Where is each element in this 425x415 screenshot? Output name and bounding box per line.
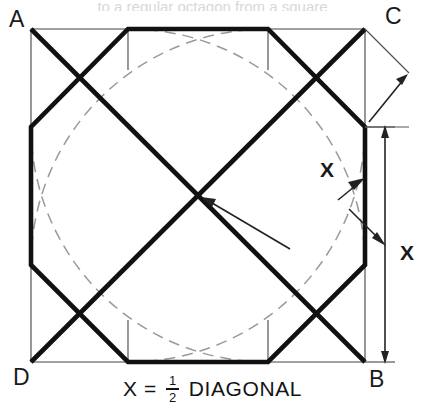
right-vertical-dimension bbox=[365, 125, 395, 364]
fraction-numerator: 1 bbox=[169, 374, 177, 388]
dimension-label-x-lower: X bbox=[400, 241, 414, 264]
octagon-construction-figure: to a regular octagon from a square bbox=[0, 0, 425, 415]
caption-term: DIAGONAL bbox=[189, 377, 302, 400]
upper-right-diagonal-dimension bbox=[365, 29, 409, 127]
caption-fraction-one-half: 1 2 bbox=[166, 374, 179, 404]
caption-variable: X bbox=[123, 377, 138, 400]
diagram-canvas: A C B D X X bbox=[0, 0, 425, 415]
dimension-label-x-upper: X bbox=[320, 158, 334, 181]
caption-equals: = bbox=[144, 377, 157, 400]
x-label-lower-arrow bbox=[349, 209, 386, 246]
figure-caption: X = 1 2 DIAGONAL bbox=[0, 375, 425, 405]
fraction-denominator: 2 bbox=[169, 390, 177, 404]
top-title-fragment: to a regular octagon from a square bbox=[0, 0, 425, 11]
x-label-upper-arrow bbox=[338, 178, 365, 200]
